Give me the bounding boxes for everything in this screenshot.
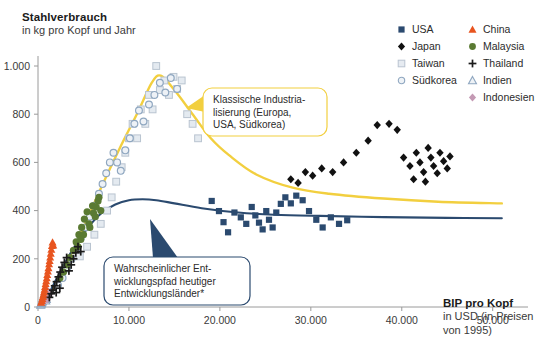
data-point (270, 224, 276, 230)
legend-marker-icon (467, 58, 478, 69)
chart-container: Stahlverbrauch in kg pro Kopf und Jahr B… (0, 0, 553, 345)
callout-line: Klassische Industria- (213, 94, 305, 105)
chart-legend: USAChinaJapanMalaysiaTaiwanThailandSüdko… (396, 22, 534, 105)
y-tick-label: 400 (12, 204, 30, 216)
callout-line: lisierung (Europa, (213, 107, 291, 118)
legend-item-label: Indien (483, 75, 512, 86)
x-tick-label: 30.000 (295, 314, 327, 326)
data-point (263, 208, 269, 214)
data-point (68, 267, 70, 275)
data-point (336, 221, 342, 227)
data-point (99, 181, 106, 188)
data-point (84, 208, 91, 215)
data-point (256, 220, 262, 226)
data-point (340, 158, 347, 166)
data-point (134, 135, 141, 142)
legend-item-japan[interactable]: Japan (396, 39, 457, 54)
data-point (110, 149, 117, 156)
legend-item-indien[interactable]: Indien (467, 73, 534, 88)
data-point (309, 172, 316, 180)
data-point (225, 229, 231, 235)
data-point (328, 214, 334, 220)
legend-marker-icon (467, 75, 478, 86)
data-point (61, 263, 63, 271)
legend-item-label: Japan (412, 41, 441, 52)
data-point (140, 118, 147, 125)
data-point (394, 126, 401, 134)
data-point (93, 203, 100, 210)
data-point (416, 158, 423, 166)
data-point (427, 153, 434, 161)
data-point (73, 255, 75, 263)
callout-line: USA, Südkorea) (213, 119, 285, 130)
x-tick-label: 10.000 (113, 314, 145, 326)
data-point (77, 236, 84, 243)
legend-item-taiwan[interactable]: Taiwan (396, 56, 457, 71)
legend-marker-icon (396, 41, 407, 52)
chart-subtitle: in kg pro Kopf und Jahr (22, 24, 136, 38)
data-point (288, 200, 294, 206)
data-point (287, 175, 294, 183)
data-point (249, 204, 255, 210)
data-point (422, 178, 429, 186)
x-tick-label: 0 (35, 314, 41, 326)
data-point (385, 120, 392, 128)
legend-marker-icon (467, 41, 478, 52)
page-title: Stahlverbrauch (22, 10, 136, 24)
legend-item-label: Malaysia (483, 41, 524, 52)
data-point (238, 214, 244, 220)
data-point (252, 212, 258, 218)
data-point (59, 268, 61, 276)
data-point (440, 157, 447, 165)
data-point (77, 243, 79, 251)
data-point (410, 175, 417, 183)
data-point (424, 144, 431, 152)
data-point (167, 75, 174, 82)
data-point (353, 149, 360, 157)
data-point (146, 101, 153, 108)
callout-pointer-navy (150, 219, 178, 258)
callout-line: wicklungspfad heutiger (113, 276, 216, 287)
data-point (260, 226, 266, 232)
legend-item-s-dkorea[interactable]: Südkorea (396, 73, 457, 88)
x-axis-subtitle-line2: von 1995) (443, 324, 533, 338)
data-point (444, 164, 451, 172)
data-point (430, 162, 437, 170)
data-point (278, 201, 284, 207)
data-point (113, 178, 120, 185)
data-point (266, 217, 272, 223)
legend-item-label: Thailand (483, 58, 523, 69)
data-point (413, 149, 420, 157)
y-tick-label: 1.000 (4, 60, 30, 72)
data-point (103, 170, 110, 177)
callout-entwicklungspfad: Wahrscheinlicher Ent-wicklungspfad heuti… (104, 257, 250, 305)
data-point (406, 162, 413, 170)
data-point (318, 164, 325, 172)
x-axis-subtitle-line1: in USD (in Preisen (443, 310, 533, 324)
data-point (216, 208, 222, 214)
callout-klassische-industrialisierung: Klassische Industria-lisierung (Europa,U… (203, 88, 327, 136)
data-point (66, 254, 68, 262)
legend-item-china[interactable]: China (467, 22, 534, 37)
data-point (64, 258, 66, 266)
data-point (58, 273, 60, 281)
data-point (436, 149, 443, 157)
chart-title-block: Stahlverbrauch in kg pro Kopf und Jahr (22, 10, 136, 38)
data-point (420, 168, 427, 176)
legend-item-malaysia[interactable]: Malaysia (467, 39, 534, 54)
data-point (243, 221, 249, 227)
data-point (329, 168, 336, 176)
data-point (78, 224, 85, 231)
data-point (184, 111, 191, 118)
data-point (364, 137, 371, 145)
data-point (300, 197, 306, 203)
y-tick-label: 0 (24, 301, 30, 313)
legend-item-thailand[interactable]: Thailand (467, 56, 534, 71)
data-point (56, 278, 58, 286)
legend-item-indonesien[interactable]: Indonesien (467, 90, 534, 105)
data-point (189, 120, 196, 127)
data-point (97, 220, 104, 227)
legend-item-usa[interactable]: USA (396, 22, 457, 37)
data-point (434, 169, 441, 177)
legend-item-label: USA (412, 24, 434, 35)
